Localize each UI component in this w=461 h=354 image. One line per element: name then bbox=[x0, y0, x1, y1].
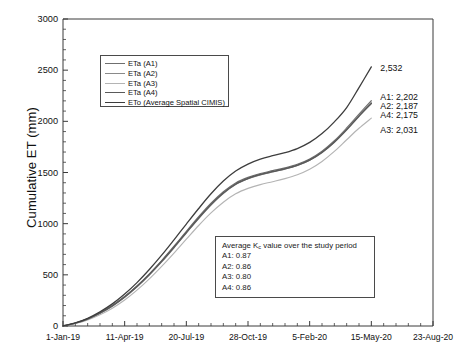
end-value-label: A1: 2,202 bbox=[380, 92, 418, 102]
y-axis-ticks bbox=[63, 19, 68, 326]
legend-label: ETo (Average Spatial CIMIS) bbox=[128, 98, 225, 107]
cumulative-et-chart: Cumulative ET (mm) 050010001500200025003… bbox=[0, 0, 461, 354]
legend-swatch bbox=[105, 83, 125, 84]
legend-swatch bbox=[105, 102, 125, 103]
end-value-label: 2,532 bbox=[380, 63, 402, 73]
legend-item: ETa (A4) bbox=[105, 88, 224, 97]
plot-area bbox=[0, 0, 461, 354]
end-value-label: A3: 2,031 bbox=[380, 125, 418, 135]
legend-item: ETa (A1) bbox=[105, 59, 224, 68]
legend-item: ETo (Average Spatial CIMIS) bbox=[105, 98, 224, 107]
legend-label: ETa (A4) bbox=[128, 88, 158, 97]
end-value-label: A4: 2,175 bbox=[380, 110, 418, 120]
legend-swatch bbox=[105, 63, 125, 64]
legend-item: ETa (A2) bbox=[105, 69, 224, 78]
kc-box-title: Average Kc value over the study period bbox=[222, 241, 368, 250]
legend-swatch bbox=[105, 92, 125, 93]
x-axis-ticks bbox=[63, 321, 433, 326]
chart-legend: ETa (A1)ETa (A2)ETa (A3)ETa (A4)ETo (Ave… bbox=[100, 55, 229, 107]
legend-label: ETa (A2) bbox=[128, 69, 158, 78]
kc-value-row: A4: 0.86 bbox=[222, 283, 368, 294]
legend-swatch bbox=[105, 73, 125, 74]
kc-value-row: A3: 0.80 bbox=[222, 272, 368, 283]
legend-label: ETa (A3) bbox=[128, 79, 158, 88]
legend-label: ETa (A1) bbox=[128, 59, 158, 68]
legend-item: ETa (A3) bbox=[105, 78, 224, 87]
kc-value-row: A2: 0.86 bbox=[222, 262, 368, 273]
kc-value-row: A1: 0.87 bbox=[222, 251, 368, 262]
kc-annotation-box: Average Kc value over the study period A… bbox=[215, 236, 375, 298]
